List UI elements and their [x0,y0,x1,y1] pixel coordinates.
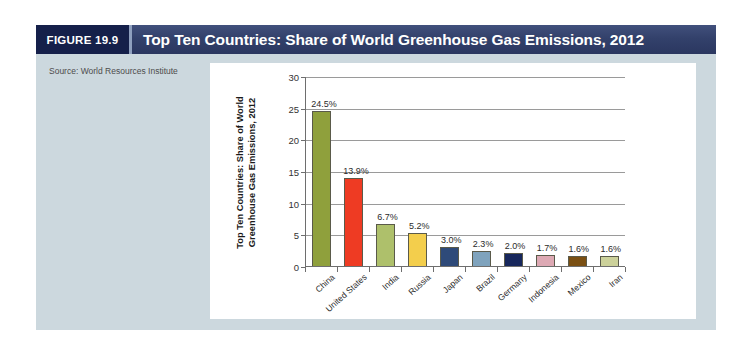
bar-value-label: 2.0% [505,241,526,251]
bar-slot: 6.7% [370,77,402,266]
figure-container: FIGURE 19.9 Top Ten Countries: Share of … [0,0,749,354]
bar-slot: 2.3% [466,77,498,266]
bar-slot: 1.6% [593,77,625,266]
bar-value-label: 6.7% [377,212,398,222]
bar-value-label: 1.7% [537,243,558,253]
bar-slot: 1.7% [529,77,561,266]
y-tick-label: 15 [288,167,299,178]
bar-slot: 13.9% [338,77,370,266]
figure-body: Source: World Resources Institute Top Te… [36,54,716,330]
figure-title: Top Ten Countries: Share of World Greenh… [132,31,716,49]
bar[interactable] [408,233,427,266]
bar[interactable] [600,256,619,266]
bar-value-label: 5.2% [409,221,430,231]
bar[interactable] [472,251,491,266]
bar-slot: 3.0% [434,77,466,266]
bar-value-label: 3.0% [441,235,462,245]
y-tick-label: 5 [294,230,299,241]
x-axis-category-label: Japan [441,272,465,295]
x-axis-category-label: Brazil [474,272,497,294]
bar-value-label: 13.9% [343,166,369,176]
x-axis-category-label: Indonesia [526,272,560,304]
x-axis-category-label: Iran [607,272,625,289]
chart-panel: Top Ten Countries: Share of WorldGreenho… [210,63,696,319]
y-tick-label: 20 [288,135,299,146]
bar-value-label: 1.6% [569,244,590,254]
bar[interactable] [504,253,523,266]
bar-value-label: 1.6% [600,244,621,254]
y-tick-label: 30 [288,72,299,83]
y-axis-title-line: Top Ten Countries: Share of World [235,96,247,248]
y-tick-label: 25 [288,103,299,114]
y-axis-title-line: Greenhouse Gas Emissions, 2012 [246,96,258,248]
plot-area: 051015202530 24.5%13.9%6.7%5.2%3.0%2.3%2… [305,77,625,267]
bar-slot: 1.6% [561,77,593,266]
x-axis-category-label: China [313,272,336,294]
bar[interactable] [376,224,395,266]
y-tick-label: 0 [294,262,299,273]
figure-header: FIGURE 19.9 Top Ten Countries: Share of … [36,25,716,54]
x-axis-category-label: Russia [406,272,432,297]
x-axis-category-label: India [380,272,401,292]
bar-slot: 24.5% [306,77,338,266]
bar-series: 24.5%13.9%6.7%5.2%3.0%2.3%2.0%1.7%1.6%1.… [306,77,625,266]
bar[interactable] [568,256,587,266]
bar[interactable] [344,178,363,266]
x-tick-mark [625,267,626,272]
bar-slot: 2.0% [497,77,529,266]
bar-value-label: 24.5% [311,99,337,109]
y-axis-title: Top Ten Countries: Share of WorldGreenho… [238,77,254,267]
bar-value-label: 2.3% [473,239,494,249]
x-axis-category-label: Mexico [566,272,593,298]
figure-number-badge: FIGURE 19.9 [36,25,129,54]
y-tick-label: 10 [288,198,299,209]
source-note: Source: World Resources Institute [49,66,199,77]
bar[interactable] [440,247,459,266]
x-axis-category-label: Germany [496,272,529,303]
bar[interactable] [536,255,555,266]
x-axis-labels: ChinaUnited StatesIndiaRussiaJapanBrazil… [305,272,625,318]
bar-slot: 5.2% [402,77,434,266]
bar[interactable] [312,111,331,266]
